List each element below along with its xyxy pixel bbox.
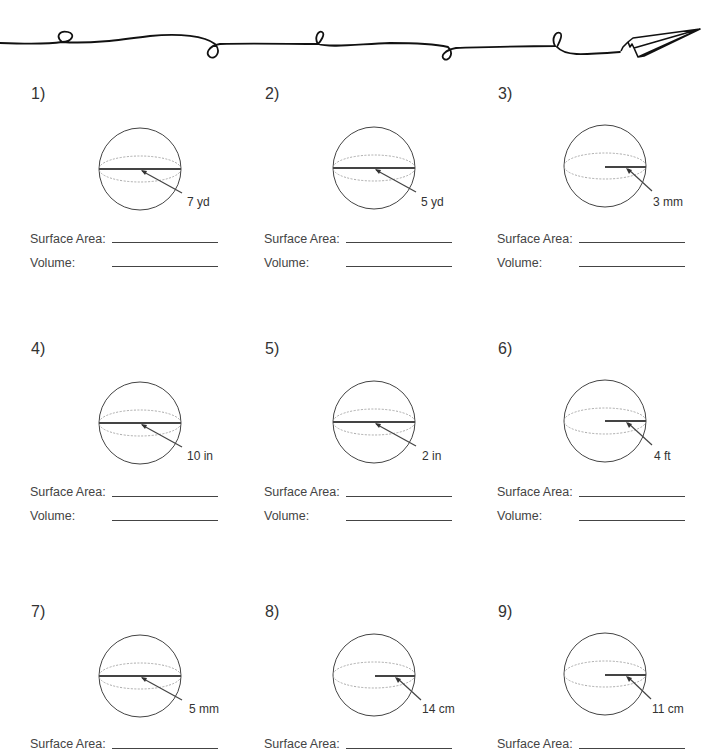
sphere-icon: [20, 85, 240, 255]
sphere-dimension-label: 11 cm: [652, 702, 684, 716]
surface-area-label: Surface Area:: [264, 737, 340, 751]
surface-area-label: Surface Area:: [264, 485, 340, 499]
clipped-header-text: [88, 0, 328, 3]
surface-area-answer-blank[interactable]: [112, 496, 218, 497]
surface-area-label: Surface Area:: [30, 737, 106, 751]
volume-label: Volume:: [264, 509, 309, 523]
sphere-dimension-label: 2 in: [422, 449, 441, 463]
surface-area-answer-blank[interactable]: [112, 242, 218, 243]
volume-label: Volume:: [30, 509, 75, 523]
volume-answer-blank[interactable]: [346, 266, 452, 267]
problem-3: 3) 3 mm Surface Area: Volume:: [487, 85, 702, 285]
sphere-icon: [254, 603, 474, 752]
surface-area-answer-blank[interactable]: [579, 496, 685, 497]
volume-answer-blank[interactable]: [112, 266, 218, 267]
surface-area-answer-blank[interactable]: [346, 242, 452, 243]
sphere-dimension-label: 7 yd: [187, 195, 210, 209]
sphere-dimension-label: 5 yd: [421, 195, 444, 209]
problem-7: 7) 5 mm Surface Area:: [20, 603, 240, 752]
problem-9: 9) 11 cm Surface Area:: [487, 603, 702, 752]
surface-area-answer-blank[interactable]: [346, 748, 452, 749]
problem-1: 1) 7 yd Surface Area: Volume:: [20, 85, 240, 285]
volume-answer-blank[interactable]: [579, 266, 685, 267]
surface-area-label: Surface Area:: [30, 232, 106, 246]
surface-area-label: Surface Area:: [497, 737, 573, 751]
volume-label: Volume:: [30, 256, 75, 270]
surface-area-answer-blank[interactable]: [579, 242, 685, 243]
problem-2: 2) 5 yd Surface Area: Volume:: [254, 85, 474, 285]
surface-area-answer-blank[interactable]: [112, 748, 218, 749]
sphere-dimension-label: 10 in: [187, 449, 213, 463]
volume-answer-blank[interactable]: [346, 520, 452, 521]
problem-8: 8) 14 cm Surface Area:: [254, 603, 474, 752]
surface-area-label: Surface Area:: [264, 232, 340, 246]
volume-answer-blank[interactable]: [112, 520, 218, 521]
volume-label: Volume:: [264, 256, 309, 270]
surface-area-label: Surface Area:: [497, 232, 573, 246]
sphere-dimension-label: 3 mm: [653, 195, 683, 209]
sphere-dimension-label: 5 mm: [189, 702, 219, 716]
volume-label: Volume:: [497, 256, 542, 270]
sphere-icon: [487, 85, 702, 255]
sphere-dimension-label: 14 cm: [422, 702, 455, 716]
problem-5: 5) 2 in Surface Area: Volume:: [254, 340, 474, 540]
surface-area-answer-blank[interactable]: [579, 748, 685, 749]
sphere-icon: [20, 603, 240, 752]
sphere-icon: [487, 603, 702, 752]
volume-answer-blank[interactable]: [579, 520, 685, 521]
sphere-dimension-label: 4 ft: [654, 449, 671, 463]
surface-area-label: Surface Area:: [497, 485, 573, 499]
volume-label: Volume:: [497, 509, 542, 523]
surface-area-label: Surface Area:: [30, 485, 106, 499]
problem-4: 4) 10 in Surface Area: Volume:: [20, 340, 240, 540]
problem-6: 6) 4 ft Surface Area: Volume:: [487, 340, 702, 540]
sphere-icon: [254, 85, 474, 255]
squiggle-divider-icon: [0, 20, 702, 80]
surface-area-answer-blank[interactable]: [346, 496, 452, 497]
